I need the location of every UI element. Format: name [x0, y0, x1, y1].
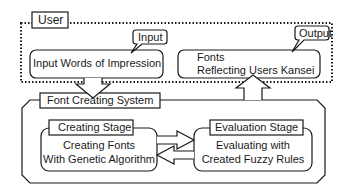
user-group-label: User [38, 14, 63, 27]
output-box-line2: Reflecting Users Kansei [197, 64, 314, 77]
evaluation-stage-line1: Evaluating with [194, 139, 312, 152]
input-callout-label: Input [138, 31, 162, 44]
evaluation-stage-title: Evaluation Stage [215, 121, 298, 134]
system-label: Font Creating System [47, 94, 153, 107]
output-callout-label: Output [299, 27, 332, 40]
arrow-up-icon [236, 75, 270, 100]
creating-stage-line2: With Genetic Algorithm [41, 153, 157, 166]
arrow-left-icon [157, 146, 194, 164]
arrow-right-icon [157, 131, 194, 149]
creating-stage-title: Creating Stage [58, 121, 131, 134]
input-box-text: Input Words of Impression [33, 57, 161, 70]
output-box-line1: Fonts [197, 51, 225, 64]
creating-stage-line1: Creating Fonts [41, 139, 157, 152]
evaluation-stage-line2: Created Fuzzy Rules [194, 153, 312, 166]
